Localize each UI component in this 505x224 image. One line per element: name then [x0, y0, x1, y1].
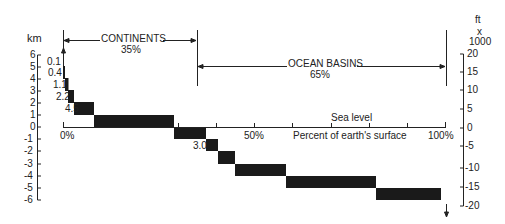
bar-minus6-minus5km	[376, 188, 441, 200]
continents-percent: 35%	[121, 45, 141, 55]
bar-0-1km	[94, 115, 174, 127]
bar-minus5-minus4km	[286, 176, 376, 188]
tick-ft: 10	[467, 85, 478, 95]
bar-label: 0.4	[48, 68, 62, 78]
tick-ft: 5	[467, 104, 473, 114]
tick-ft: 20	[467, 49, 478, 59]
tick-km: -1	[24, 134, 33, 144]
tick-km: 0	[30, 122, 36, 132]
arrow-down-icon	[445, 204, 449, 217]
bar-minus3-minus2km	[218, 151, 235, 164]
tick-km: 5	[30, 62, 36, 72]
tick-km: 6	[30, 50, 36, 60]
tick-ft: 15	[467, 67, 478, 77]
bar-minus2-minus1km	[206, 139, 218, 151]
tick-km: -5	[24, 183, 33, 193]
x-axis-label: Percent of earth's surface	[293, 131, 407, 141]
arrow-up-icon	[62, 48, 66, 66]
tick-km: -2	[24, 146, 33, 156]
y-axis-label-1000: 1000	[469, 37, 491, 47]
bar-label: 1.1	[53, 80, 67, 90]
tick-km: -3	[24, 159, 33, 169]
tick-km: 2	[30, 98, 36, 108]
sea-level-label: Sea level	[331, 113, 372, 123]
tick-km: 4	[30, 74, 36, 84]
bar-4-5km	[63, 66, 65, 79]
x-tick-100: 100%	[428, 131, 454, 141]
bar-label: 0.1	[47, 57, 61, 67]
tick-ft: -10	[465, 163, 479, 173]
tick-km: -6	[24, 195, 33, 205]
x-tick-50: 50%	[244, 131, 264, 141]
x-tick-0: 0%	[60, 131, 74, 141]
tick-km: 3	[30, 86, 36, 96]
bar-label: 3.0	[193, 141, 207, 151]
y-axis-label-km: km	[27, 33, 42, 43]
tick-ft: 0	[467, 123, 473, 133]
ocean-basins-percent: 65%	[310, 70, 330, 80]
tick-km: 1	[30, 110, 36, 120]
tick-ft: -5	[465, 141, 474, 151]
tick-ft: -15	[465, 182, 479, 192]
ocean-basins-label: OCEAN BASINS	[288, 59, 363, 69]
continents-label: CONTINENTS	[101, 34, 166, 44]
y-axis-label-ft: ft	[475, 15, 481, 25]
bar-label: 4.5	[65, 104, 79, 114]
bar-label: 2.2	[56, 92, 70, 102]
tick-ft: -20	[465, 201, 479, 211]
bar-minus1-0km	[174, 128, 206, 139]
bar-minus4-minus3km	[235, 164, 286, 176]
left-axis	[38, 55, 42, 200]
tick-km: -4	[24, 171, 33, 181]
right-axis	[460, 54, 464, 206]
